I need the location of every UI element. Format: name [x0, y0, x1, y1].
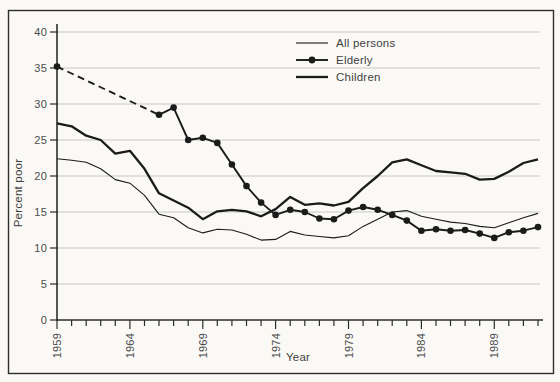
legend-label-children: Children: [336, 71, 381, 83]
x-axis-title: Year: [286, 351, 310, 363]
legend-label-all-persons: All persons: [336, 37, 395, 49]
series-children: [57, 123, 538, 219]
y-tick-label: 35: [34, 62, 47, 74]
figure-border: [9, 11, 554, 374]
y-tick-label: 10: [34, 242, 47, 254]
y-tick-label: 20: [34, 170, 47, 182]
y-tick-label: 5: [41, 278, 47, 290]
y-tick-label: 40: [34, 26, 47, 38]
x-tick-label: 1969: [197, 333, 209, 358]
legend-item-elderly: Elderly: [296, 54, 373, 66]
x-tick-label: 1979: [343, 333, 355, 358]
y-tick-label: 30: [34, 98, 47, 110]
x-tick-label: 1964: [124, 333, 136, 358]
x-tick-label: 1959: [51, 333, 63, 358]
x-tick-label: 1984: [415, 333, 427, 358]
chart-generated-layer: 0510152025303540195919641969197419791984…: [34, 24, 543, 358]
y-tick-label: 25: [34, 134, 47, 146]
y-tick-label: 15: [34, 206, 47, 218]
legend: All persons Elderly Children: [296, 37, 395, 83]
axes: 0510152025303540195919641969197419791984…: [34, 24, 543, 358]
legend-label-elderly: Elderly: [336, 54, 373, 66]
y-axis-title: Percent poor: [12, 159, 24, 228]
legend-item-children: Children: [296, 71, 381, 83]
x-tick-label: 1974: [270, 333, 282, 358]
elderly-marker-sample: [309, 57, 316, 64]
y-tick-label: 0: [41, 314, 47, 326]
x-tick-label: 1989: [488, 333, 500, 358]
poverty-rate-chart: 0510152025303540195919641969197419791984…: [0, 0, 560, 382]
legend-item-all-persons: All persons: [296, 37, 395, 49]
gridlines: [57, 32, 540, 284]
